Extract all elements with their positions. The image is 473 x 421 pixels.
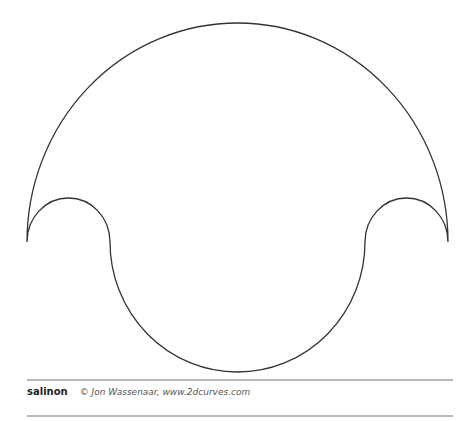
- caption-rule-top: [27, 379, 453, 381]
- caption-rule-bottom: [27, 415, 453, 417]
- salinon-outline: [27, 23, 448, 372]
- curve-title: salinon: [27, 386, 68, 397]
- caption: salinon © Jon Wassenaar, www.2dcurves.co…: [27, 386, 250, 397]
- credit-text: © Jon Wassenaar, www.2dcurves.com: [80, 387, 251, 397]
- salinon-curve: [0, 0, 473, 421]
